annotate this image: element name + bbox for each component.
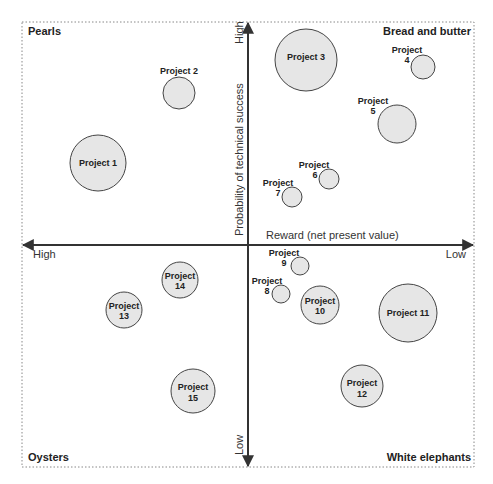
bubble-label-number: 15 xyxy=(188,393,198,403)
bubble-label: Project xyxy=(109,301,140,311)
bubble-project-6: Project 6 xyxy=(299,160,339,189)
bubble-label: Project xyxy=(299,160,330,170)
x-axis-high-label: High xyxy=(33,248,56,260)
bubble-label-number: 4 xyxy=(404,55,409,65)
quadrant-label-white-elephants: White elephants xyxy=(387,451,471,463)
bubble-project-15: Project 15 xyxy=(171,369,215,413)
y-axis-high-label: High xyxy=(233,21,245,44)
bubble-project-12: Project 12 xyxy=(341,365,383,407)
bubble-project-11: Project 11 xyxy=(379,284,437,342)
bubble-project-10: Project 10 xyxy=(301,286,339,324)
bubble-project-3: Project 3 xyxy=(275,29,337,91)
quadrant-label-bread-and-butter: Bread and butter xyxy=(383,25,472,37)
bubble-label: Project xyxy=(178,382,209,392)
bubble-label: Project xyxy=(358,96,389,106)
bubble-project-14: Project 14 xyxy=(162,262,198,298)
bubble-label-number: 9 xyxy=(281,258,286,268)
bubble-label: Project xyxy=(269,248,300,258)
y-axis-low-label: Low xyxy=(233,435,245,455)
x-axis-title: Reward (net present value) xyxy=(266,229,399,241)
bubble-project-4: Project 4 xyxy=(392,45,435,79)
bubble-label: Project 11 xyxy=(387,308,430,318)
bubble-label: Project xyxy=(263,178,294,188)
bubble-project-7: Project 7 xyxy=(263,178,302,207)
bubble-project-1: Project 1 xyxy=(70,135,126,191)
y-axis-title: Probability of technical success xyxy=(233,83,245,236)
bubble-label-number: 13 xyxy=(119,311,129,321)
bubble-label: Project 3 xyxy=(287,52,325,62)
bubble-project-9: Project 9 xyxy=(269,248,309,275)
bubble-label-number: 8 xyxy=(264,286,269,296)
bubble-label-number: 12 xyxy=(357,389,367,399)
bubble-label: Project 1 xyxy=(79,158,117,168)
bubble-project-5: Project 5 xyxy=(358,96,416,143)
bubble-project-13: Project 13 xyxy=(106,292,142,328)
bubble-label: Project 2 xyxy=(160,66,198,76)
bubble-label: Project xyxy=(347,378,378,388)
bubble-label-number: 6 xyxy=(312,170,317,180)
bubble-label-number: 5 xyxy=(370,106,375,116)
bubble-label: Project xyxy=(392,45,423,55)
bubble-label: Project xyxy=(305,296,336,306)
bubble-label-number: 14 xyxy=(175,281,185,291)
portfolio-bubble-diagram: Pearls Bread and butter Oysters White el… xyxy=(0,0,493,484)
bubble-label: Project xyxy=(252,276,283,286)
bubble-label: Project xyxy=(165,271,196,281)
x-axis-low-label: Low xyxy=(446,248,466,260)
bubble-label-number: 10 xyxy=(315,306,325,316)
bubble-project-8: Project 8 xyxy=(252,276,290,303)
quadrant-label-oysters: Oysters xyxy=(28,451,69,463)
quadrant-label-pearls: Pearls xyxy=(28,25,61,37)
bubble-label-number: 7 xyxy=(275,188,280,198)
bubble-project-2: Project 2 xyxy=(160,66,198,109)
